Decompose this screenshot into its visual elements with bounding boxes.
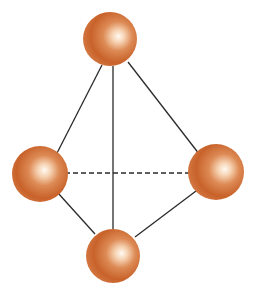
edge-left-bottom (58, 193, 95, 234)
edge-top-left (55, 65, 102, 157)
sphere-top (83, 12, 137, 66)
edge-right-bottom (135, 188, 200, 237)
tetrahedron-diagram (0, 0, 255, 290)
sphere-bottom (86, 229, 140, 283)
spheres-group (12, 12, 244, 283)
edges-group (55, 62, 203, 237)
sphere-left (12, 146, 68, 202)
sphere-right (188, 144, 244, 200)
edge-top-right (128, 62, 203, 159)
